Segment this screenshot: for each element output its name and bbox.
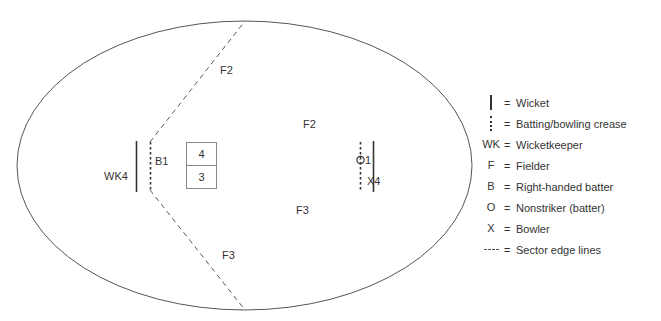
crease-dots-icon — [478, 116, 504, 131]
legend-row-batter: B = Right-handed batter — [478, 176, 661, 197]
sector-edge-line-upper — [150, 21, 245, 142]
fielder-label-mid-right: F2 — [303, 118, 316, 130]
bowler-symbol-icon: X — [478, 223, 504, 234]
legend-equals: = — [504, 223, 516, 235]
legend-equals: = — [504, 244, 516, 256]
wicket-bar-icon — [478, 95, 504, 110]
pitch-cell-top-label: 4 — [198, 148, 204, 160]
legend-label-wicketkeeper: Wicketkeeper — [516, 139, 583, 151]
fielder-label-lower-sector: F3 — [222, 249, 235, 261]
legend-row-wicketkeeper: WK = Wicketkeeper — [478, 134, 661, 155]
legend-label-nonstriker: Nonstriker (batter) — [516, 202, 605, 214]
sector-dash-icon — [478, 249, 504, 250]
legend: = Wicket = Batting/bowling crease WK = W… — [478, 92, 661, 260]
legend-row-crease: = Batting/bowling crease — [478, 113, 661, 134]
fielder-label-upper-sector: F2 — [220, 64, 233, 76]
legend-label-fielder: Fielder — [516, 160, 550, 172]
legend-row-bowler: X = Bowler — [478, 218, 661, 239]
legend-label-batter: Right-handed batter — [516, 181, 613, 193]
bowler-marker: X4 — [367, 175, 380, 187]
legend-label-sector-edge: Sector edge lines — [516, 244, 601, 256]
wicketkeeper-marker: WK4 — [104, 170, 128, 182]
batter-symbol-icon: B — [478, 181, 504, 192]
fielder-symbol-icon: F — [478, 160, 504, 171]
legend-label-bowler: Bowler — [516, 223, 550, 235]
legend-equals: = — [504, 139, 516, 151]
legend-label-crease: Batting/bowling crease — [516, 118, 627, 130]
legend-equals: = — [504, 202, 516, 214]
field-boundary-ellipse — [17, 21, 472, 310]
pitch-cell-bottom-label: 3 — [198, 171, 204, 183]
legend-equals: = — [504, 160, 516, 172]
legend-row-wicket: = Wicket — [478, 92, 661, 113]
nonstriker-count-label: 1 — [365, 154, 371, 166]
legend-row-nonstriker: O = Nonstriker (batter) — [478, 197, 661, 218]
fielder-label-lower-right: F3 — [296, 204, 309, 216]
legend-equals: = — [504, 97, 516, 109]
batter-marker: B1 — [155, 155, 168, 167]
legend-label-wicket: Wicket — [516, 97, 549, 109]
wicketkeeper-symbol-icon: WK — [478, 139, 504, 150]
legend-equals: = — [504, 181, 516, 193]
legend-row-sector-edge: = Sector edge lines — [478, 239, 661, 260]
legend-row-fielder: F = Fielder — [478, 155, 661, 176]
nonstriker-symbol-icon: O — [478, 202, 504, 213]
diagram-page: 4 3 WK4 B1 1 X4 F2 F2 F3 F3 = Wicket = B… — [0, 0, 661, 321]
legend-equals: = — [504, 118, 516, 130]
